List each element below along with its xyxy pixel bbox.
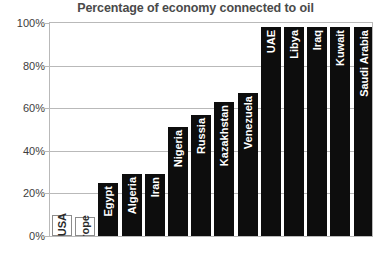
bar: Iraq	[307, 27, 327, 236]
bar: Nigeria	[168, 127, 188, 236]
bar: UAE	[261, 27, 281, 236]
bar: Saudi Arabia	[354, 27, 373, 236]
bar-label: Iran	[149, 177, 160, 197]
bar: USA	[52, 215, 72, 236]
bar: Western Europe	[75, 217, 95, 236]
bar: Iran	[145, 174, 165, 236]
y-axis-tick-label: 20%	[3, 187, 45, 199]
bar-label: Western Europe	[80, 215, 91, 237]
bar-label: Saudi Arabia	[358, 30, 369, 97]
bar: Venezuela	[238, 93, 258, 236]
bar-label: Russia	[196, 118, 207, 154]
y-axis-tick-label: 100%	[3, 17, 45, 29]
bar-label: Libya	[289, 30, 300, 59]
bar-label: UAE	[265, 30, 276, 53]
y-axis: 0%20%40%60%80%100%	[0, 0, 45, 266]
y-axis-tick-label: 40%	[3, 145, 45, 157]
bar: Kuwait	[330, 27, 350, 236]
bar-label: Kazakhstan	[219, 105, 230, 166]
bar-label: Egypt	[103, 186, 114, 217]
bar-chart: Percentage of economy connected to oil 0…	[0, 0, 391, 266]
bar-label: Algeria	[126, 177, 137, 214]
bar: Algeria	[122, 174, 142, 236]
bar: Egypt	[98, 183, 118, 236]
chart-title: Percentage of economy connected to oil	[0, 1, 391, 15]
bar: Kazakhstan	[214, 102, 234, 236]
bar: Russia	[191, 115, 211, 236]
bar-label: Nigeria	[173, 130, 184, 167]
bar-label: Iraq	[312, 30, 323, 50]
bar: Libya	[284, 27, 304, 236]
bar-label: Venezuela	[242, 96, 253, 149]
bar-label: Kuwait	[335, 30, 346, 66]
plot-area: USAWestern EuropeEgyptAlgeriaIranNigeria…	[49, 22, 373, 237]
y-axis-tick-label: 0%	[3, 230, 45, 242]
y-axis-tick-label: 80%	[3, 60, 45, 72]
bar-label: USA	[57, 213, 68, 236]
y-axis-tick-label: 60%	[3, 102, 45, 114]
